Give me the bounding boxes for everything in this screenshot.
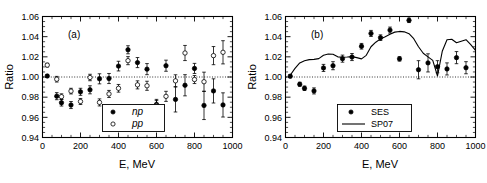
x-axis-title-b: E, MeV: [362, 158, 399, 170]
data-point: [464, 66, 468, 70]
data-point: [388, 28, 392, 32]
panel-b-svg: 020040060080010000.940.960.981.001.021.0…: [243, 0, 487, 183]
y-tick-label: 1.02: [21, 52, 39, 62]
data-point: [88, 88, 92, 92]
y-tick-label: 0.96: [264, 113, 282, 123]
data-point: [135, 83, 139, 87]
panel-label-b: (b): [311, 29, 323, 40]
data-point: [78, 90, 82, 94]
x-tick-label: 600: [392, 141, 407, 151]
panel-a-svg: 020040060080010000.940.960.981.001.021.0…: [0, 0, 244, 183]
data-point: [426, 61, 430, 65]
data-point: [55, 94, 59, 98]
data-point: [202, 80, 206, 84]
x-tick-label: 600: [149, 141, 164, 151]
x-tick-label: 1000: [222, 141, 242, 151]
data-point: [350, 55, 354, 59]
legend-marker-np-icon: [111, 110, 115, 114]
data-point: [397, 57, 401, 61]
data-point: [407, 18, 411, 22]
data-point: [164, 94, 168, 98]
data-point: [192, 77, 196, 81]
data-point: [378, 35, 382, 39]
y-axis-title-a: Ratio: [3, 64, 15, 90]
data-point: [321, 66, 325, 70]
data-point: [369, 31, 373, 35]
data-point: [45, 63, 49, 67]
data-point: [97, 100, 101, 104]
chart-panel-a: 020040060080010000.940.960.981.001.021.0…: [0, 0, 244, 183]
y-tick-label: 0.98: [21, 92, 39, 102]
panel-label-a: (a): [68, 29, 80, 40]
y-tick-label: 1.02: [264, 52, 282, 62]
data-point: [312, 89, 316, 93]
data-point: [69, 89, 73, 93]
y-tick-label: 0.94: [264, 133, 282, 143]
x-tick-label: 1000: [465, 141, 485, 151]
data-point: [97, 77, 101, 81]
x-tick-label: 800: [430, 141, 445, 151]
data-point: [359, 44, 363, 48]
y-tick-label: 1.06: [264, 12, 282, 22]
x-tick-label: 200: [316, 141, 331, 151]
x-tick-label: 400: [354, 141, 369, 151]
y-tick-label: 0.94: [21, 133, 39, 143]
data-point: [164, 64, 168, 68]
x-tick-label: 400: [111, 141, 126, 151]
x-tick-label: 0: [40, 141, 45, 151]
legend-label-ses: SES: [371, 107, 389, 117]
data-point: [135, 60, 139, 64]
legend-label-np: np: [132, 106, 144, 117]
data-point: [145, 67, 149, 71]
data-point: [59, 94, 63, 98]
data-point: [416, 68, 420, 72]
data-point: [211, 53, 215, 57]
y-tick-label: 1.00: [264, 72, 282, 82]
data-point: [107, 92, 111, 96]
y-tick-label: 0.98: [264, 92, 282, 102]
data-point: [211, 89, 215, 93]
y-axis-title-b: Ratio: [246, 64, 258, 90]
data-point: [173, 97, 177, 101]
legend-label-pp: pp: [131, 118, 144, 129]
y-tick-label: 0.96: [21, 113, 39, 123]
data-point: [88, 75, 92, 79]
data-point: [221, 50, 225, 54]
x-axis-title-a: E, MeV: [119, 158, 156, 170]
y-tick-label: 1.04: [21, 32, 39, 42]
data-point: [183, 83, 187, 87]
legend-b: SES SP07: [338, 105, 412, 132]
legend-a: np pp: [103, 105, 165, 132]
data-point: [145, 84, 149, 88]
legend-marker-pp-icon: [111, 122, 115, 126]
data-point: [183, 51, 187, 55]
data-point: [454, 55, 458, 59]
data-point: [221, 103, 225, 107]
y-tick-label: 1.06: [21, 12, 39, 22]
figure-container: 020040060080010000.940.960.981.001.021.0…: [0, 0, 487, 183]
y-tick-label: 1.00: [21, 72, 39, 82]
data-point: [107, 76, 111, 80]
data-point: [116, 64, 120, 68]
data-point: [116, 86, 120, 90]
data-point: [59, 101, 63, 105]
x-tick-label: 0: [283, 141, 288, 151]
x-tick-label: 800: [187, 141, 202, 151]
data-point: [302, 86, 306, 90]
data-point: [55, 77, 59, 81]
legend-marker-ses-icon: [349, 110, 353, 114]
data-point: [435, 65, 439, 69]
data-point: [331, 64, 335, 68]
legend-label-sp07: SP07: [371, 119, 393, 129]
x-tick-label: 200: [73, 141, 88, 151]
y-tick-label: 1.04: [264, 32, 282, 42]
data-point: [288, 74, 292, 78]
data-point: [445, 67, 449, 71]
chart-panel-b: 020040060080010000.940.960.981.001.021.0…: [243, 0, 487, 183]
series-pp: [45, 41, 225, 111]
data-point: [173, 79, 177, 83]
data-point: [126, 48, 130, 52]
data-point: [69, 103, 73, 107]
data-point: [126, 58, 130, 62]
data-point: [45, 74, 49, 78]
